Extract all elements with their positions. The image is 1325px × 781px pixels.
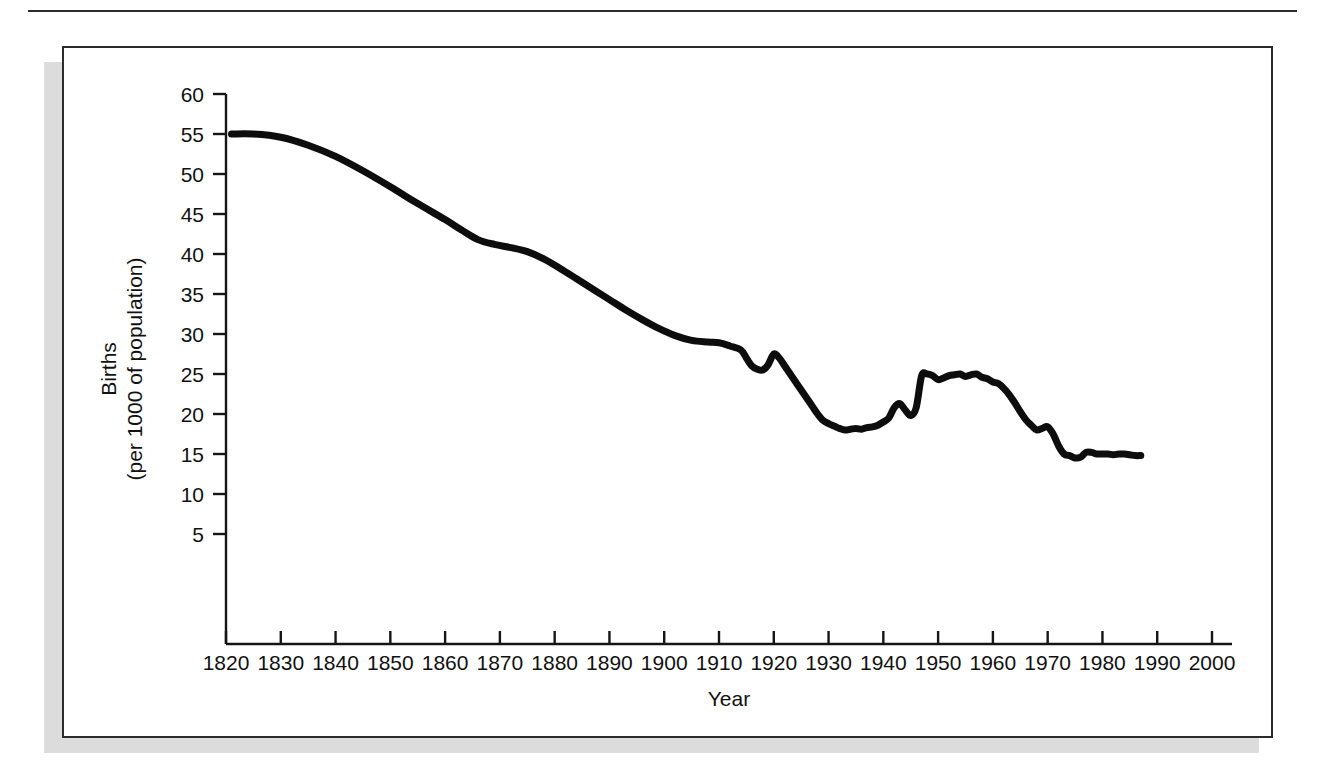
x-tick-label: 1870 [477, 651, 524, 674]
y-tick-label: 55 [181, 123, 204, 146]
birth-rate-series-line [231, 134, 1140, 458]
x-tick-label: 1830 [257, 651, 304, 674]
y-axis-title: Births (per 1000 of population) [97, 258, 146, 481]
x-tick-label: 1970 [1024, 651, 1071, 674]
x-tick-label: 1910 [696, 651, 743, 674]
y-tick-label: 15 [181, 443, 204, 466]
y-tick-label: 20 [181, 403, 204, 426]
y-tick-label: 30 [181, 323, 204, 346]
x-tick-label: 1890 [586, 651, 633, 674]
x-tick-label: 1850 [367, 651, 414, 674]
y-tick-label: 10 [181, 483, 204, 506]
x-tick-label: 1990 [1134, 651, 1181, 674]
x-axis-title: Year [708, 687, 750, 710]
y-tick-label: 35 [181, 283, 204, 306]
x-tick-label: 1880 [531, 651, 578, 674]
y-tick-label: 60 [181, 83, 204, 106]
x-tick-label: 1900 [641, 651, 688, 674]
y-tick-label: 50 [181, 163, 204, 186]
top-divider-rule [28, 10, 1297, 12]
x-tick-label: 1820 [203, 651, 250, 674]
x-tick-label: 2000 [1189, 651, 1236, 674]
x-tick-label: 1930 [805, 651, 852, 674]
x-tick-label: 1960 [970, 651, 1017, 674]
y-axis-title-line-2: (per 1000 of population) [123, 258, 146, 481]
x-tick-label: 1920 [750, 651, 797, 674]
x-tick-label: 1840 [312, 651, 359, 674]
y-tick-label: 40 [181, 243, 204, 266]
birth-rate-line-chart: 51015202530354045505560 1820183018401850… [64, 48, 1275, 740]
x-tick-label: 1980 [1079, 651, 1126, 674]
y-tick-label: 5 [192, 523, 204, 546]
x-tick-label: 1950 [915, 651, 962, 674]
plot-surface: 51015202530354045505560 1820183018401850… [64, 48, 1275, 740]
y-axis-title-line-1: Births [97, 342, 120, 396]
x-tick-label: 1940 [860, 651, 907, 674]
figure-frame: 51015202530354045505560 1820183018401850… [62, 46, 1273, 738]
y-tick-label: 45 [181, 203, 204, 226]
y-axis-ticks: 51015202530354045505560 [181, 83, 226, 546]
x-tick-label: 1860 [422, 651, 469, 674]
x-axis-ticks: 1820183018401850186018701880189019001910… [203, 631, 1236, 674]
y-tick-label: 25 [181, 363, 204, 386]
